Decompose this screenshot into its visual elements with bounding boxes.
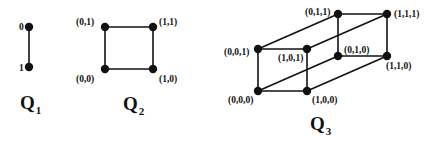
q3-vertex: [383, 10, 391, 18]
q1-vertex-label: 0: [19, 22, 24, 32]
q3-vertex: [334, 10, 342, 18]
q3-vertex: [254, 87, 262, 95]
q3-vertex: [254, 45, 262, 53]
q3-edge: [307, 56, 387, 91]
graph-title: Q1: [20, 92, 41, 116]
q2-vertex: [101, 65, 109, 73]
q3-vertex-label: (1,0,1): [278, 53, 303, 64]
q2-vertex: [149, 23, 157, 31]
q3-vertex: [383, 52, 391, 60]
q3-vertex-label: (0,0,0): [228, 95, 253, 106]
q2-vertex-label: (0,0): [76, 74, 94, 85]
q1-vertex-label: 1: [19, 63, 24, 73]
q3-vertex-label: (1,1,1): [394, 9, 419, 20]
q3-edge: [307, 14, 387, 49]
q2-vertex-label: (0,1): [76, 17, 94, 28]
q3-vertex: [303, 45, 311, 53]
q3-edge: [258, 14, 338, 49]
graph-titles: Q1Q2Q3: [20, 92, 332, 137]
q2-vertex: [149, 65, 157, 73]
q3-vertex-label: (0,1,1): [305, 7, 330, 18]
q2-vertex: [101, 23, 109, 31]
graph-title: Q2: [123, 93, 145, 117]
q3-vertex-label: (1,1,0): [386, 61, 411, 72]
hypercube-diagram: 01(0,1)(1,1)(0,0)(1,0)(0,0,0)(1,0,0)(0,0…: [0, 0, 433, 144]
graph-title: Q3: [310, 113, 332, 137]
q1-vertex: [25, 63, 33, 71]
q1-vertex: [25, 23, 33, 31]
q2-vertex-label: (1,1): [159, 17, 177, 28]
q3-vertex: [334, 52, 342, 60]
q3-vertex-label: (0,0,1): [224, 47, 249, 58]
q3-vertex-label: (1,0,0): [312, 95, 337, 106]
q3-vertex: [303, 87, 311, 95]
q3-vertex-label: (0,1,0): [344, 45, 369, 56]
q2-vertex-label: (1,0): [159, 74, 177, 85]
